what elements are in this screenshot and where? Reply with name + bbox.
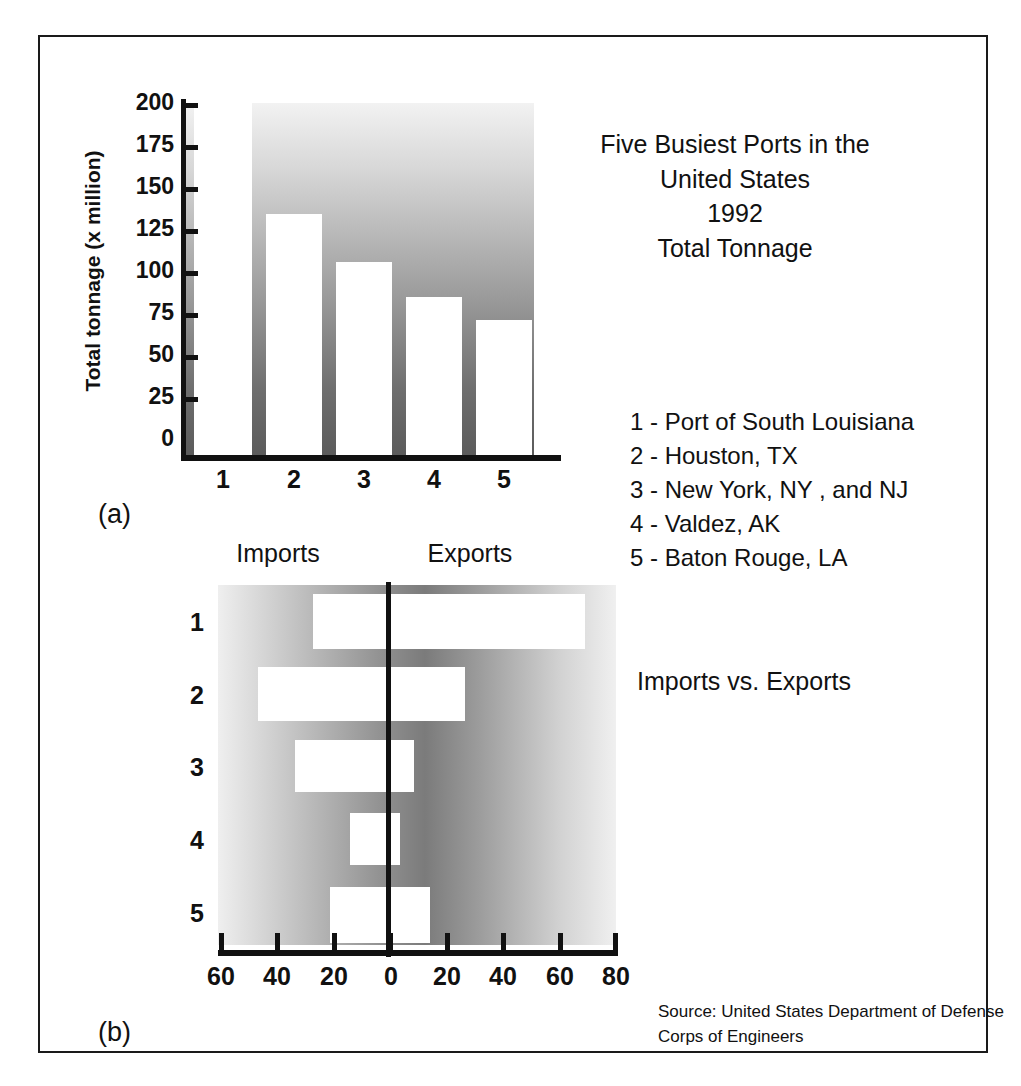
chart-b-exports-header: Exports (390, 539, 550, 568)
source-note-line-1: Source: United States Department of Defe… (658, 1000, 1004, 1025)
chart-b-ytick-label-3: 3 (170, 753, 204, 782)
chart-b-xtick-neg40 (275, 933, 280, 951)
chart-b-xtick-neg60 (219, 933, 224, 951)
chart-b-ytick-label-2: 2 (170, 681, 204, 710)
source-note: Source: United States Department of Defe… (658, 1000, 1004, 1049)
chart-b-ytick-label-4: 4 (170, 826, 204, 855)
chart-b-bar-4-imports (350, 813, 389, 865)
chart-b-xtick-label-40: 40 (478, 962, 528, 991)
chart-b-bar-2-exports (388, 667, 465, 721)
chart-b-bar-5-exports (388, 887, 430, 943)
chart-b-xtick-80 (613, 933, 618, 951)
chart-b-bar-1-imports (313, 594, 389, 649)
chart-b-xtick-label-neg40: 40 (252, 962, 302, 991)
chart-b-bar-5-imports (330, 887, 389, 943)
chart-b-xtick-60 (558, 933, 563, 951)
chart-b-bar-3-imports (295, 740, 389, 792)
chart-b-xtick-neg20 (332, 933, 337, 951)
figure-frame: 200 175 150 125 100 75 50 25 0 Total ton… (38, 35, 988, 1053)
chart-b-xtick-label-neg60: 60 (196, 962, 246, 991)
chart-b-imports-vs-exports: Imports Exports 60 40 20 0 20 (40, 37, 740, 1047)
source-note-line-2: Corps of Engineers (658, 1025, 1004, 1050)
panel-b-label: (b) (98, 1017, 131, 1048)
chart-b-ytick-label-5: 5 (170, 899, 204, 928)
chart-b-imports-header: Imports (198, 539, 358, 568)
chart-b-xtick-40 (501, 933, 506, 951)
chart-b-xtick-label-0: 0 (366, 962, 416, 991)
chart-b-bar-2-imports (258, 667, 389, 721)
chart-b-xtick-20 (445, 933, 450, 951)
chart-b-xtick-label-neg20: 20 (309, 962, 359, 991)
chart-b-ytick-label-1: 1 (170, 608, 204, 637)
chart-b-xtick-label-80: 80 (591, 962, 641, 991)
chart-b-zero-line (386, 582, 391, 957)
chart-b-xtick-label-20: 20 (422, 962, 472, 991)
chart-b-xtick-label-60: 60 (535, 962, 585, 991)
chart-b-bar-3-exports (388, 740, 414, 792)
chart-b-side-title: Imports vs. Exports (637, 667, 851, 696)
chart-b-bar-1-exports (388, 594, 585, 649)
